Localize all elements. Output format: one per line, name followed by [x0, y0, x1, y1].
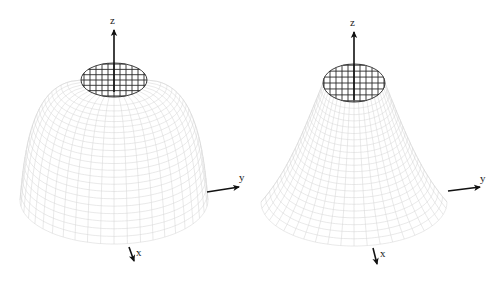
x-axis-label: x	[380, 247, 386, 259]
y-axis-label: y	[239, 171, 245, 183]
y-axis-arrow	[448, 187, 480, 191]
z-axis-label: z	[110, 14, 115, 26]
x-axis-arrow	[129, 247, 134, 261]
y-axis-arrow	[207, 187, 239, 192]
panel-left: z y x	[20, 14, 245, 261]
axes: z y x	[350, 16, 486, 264]
panel-right: z y x	[261, 16, 486, 264]
figure-canvas: z y x z y x	[0, 0, 500, 281]
x-axis-arrow	[373, 248, 377, 264]
bell-surface-wireframe	[261, 83, 447, 246]
z-axis-label: z	[350, 16, 355, 28]
bell-surface-wireframe	[20, 80, 208, 244]
x-axis-label: x	[136, 246, 142, 258]
y-axis-label: y	[480, 172, 486, 184]
